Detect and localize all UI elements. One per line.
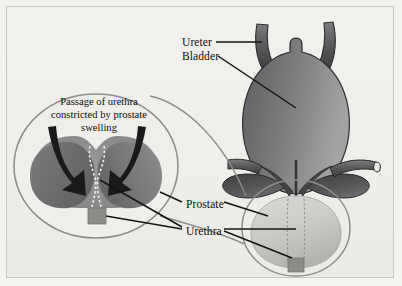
- caption-line-1: Passage of urethra: [24, 96, 174, 109]
- label-prostate: Prostate: [186, 198, 224, 211]
- magnifier-caption: Passage of urethra constricted by prosta…: [24, 96, 174, 135]
- label-ureter: Ureter: [182, 36, 212, 49]
- prostate-lobe-left: [30, 142, 95, 208]
- label-bladder: Bladder: [182, 50, 219, 63]
- vas-deferens-lumen: [374, 162, 381, 172]
- label-urethra: Urethra: [186, 225, 222, 238]
- prostate-gland: [251, 196, 341, 268]
- caption-line-2: constricted by prostate: [24, 109, 174, 122]
- anatomy-marker-square: [288, 258, 304, 272]
- prostate-lobe-right: [98, 142, 163, 208]
- main-anatomy-group: [223, 22, 381, 276]
- magnified-marker-square: [88, 208, 106, 224]
- figure-container: Passage of urethra constricted by prosta…: [0, 0, 402, 286]
- caption-line-3: swelling: [24, 122, 174, 135]
